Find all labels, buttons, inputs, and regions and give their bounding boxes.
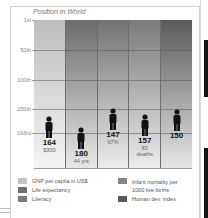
gridline [161, 80, 192, 81]
gridline [98, 50, 129, 51]
gridline [66, 109, 97, 110]
chart-legend: GNP per capita in US$ Life expectancy Li… [18, 178, 198, 208]
legend-label: Human dev. index [132, 196, 176, 202]
legend-label: Literacy [32, 196, 51, 202]
legend-swatch [18, 178, 27, 184]
legend-label: Infant mortality per [132, 178, 178, 186]
person-icon [171, 109, 183, 131]
rank-value: 180 [66, 150, 97, 158]
rank-detail: $300 [34, 147, 65, 153]
gridline [129, 50, 160, 51]
page-rule-2 [0, 212, 10, 213]
y-label-150th: 150th [12, 106, 31, 112]
column-life-expectancy: 180 44 yrs [66, 20, 98, 168]
y-label-50th: 50th [12, 47, 31, 53]
page-edge-bar-top [204, 40, 208, 97]
rank-value: 164 [34, 139, 65, 147]
legend-swatch [18, 196, 27, 202]
column-infant-mortality: 157 83 deaths [129, 20, 161, 168]
person-icon [43, 116, 55, 138]
page-divider-line [200, 0, 201, 218]
gridline [34, 109, 65, 110]
y-label-193rd: 193rd [12, 130, 31, 136]
legend-swatch [118, 178, 127, 184]
page-rule-1 [0, 208, 10, 209]
rank-detail: 67% [98, 139, 129, 145]
rank-detail: 44 yrs [66, 158, 97, 164]
gridline [129, 80, 160, 81]
rank-detail-unit: deaths [129, 151, 160, 157]
column-gnp: 164 $300 [34, 20, 66, 168]
gridline [34, 80, 65, 81]
y-label-100th: 100th [12, 77, 31, 83]
rank-value: 150 [161, 132, 192, 140]
person-icon [75, 127, 87, 149]
gridline [66, 50, 97, 51]
legend-label: Life expectancy [32, 187, 70, 193]
page-edge-bar-bottom [204, 148, 208, 218]
gridline [161, 50, 192, 51]
legend-item-gnp: GNP per capita in US$ [18, 178, 88, 184]
column-human-dev-index: 150 [161, 20, 192, 168]
gridline [129, 109, 160, 110]
rank-value: 147 [98, 131, 129, 139]
legend-label: GNP per capita in US$ [32, 178, 88, 184]
column-literacy: 147 67% [98, 20, 130, 168]
y-label-1st: 1st [12, 17, 31, 23]
legend-label-line2: 1000 live births [132, 186, 178, 194]
legend-item-life-expectancy: Life expectancy [18, 187, 70, 193]
gridline [34, 50, 65, 51]
legend-swatch [118, 196, 127, 202]
legend-item-literacy: Literacy [18, 196, 51, 202]
plot-area: 164 $300 180 44 yrs 147 67% 157 83 death… [34, 20, 192, 169]
gridline [66, 80, 97, 81]
rank-value: 157 [129, 137, 160, 145]
chart-title: Position in World [33, 8, 86, 15]
legend-swatch [18, 187, 27, 193]
legend-item-human-dev-index: Human dev. index [118, 196, 176, 202]
person-icon [107, 108, 119, 130]
gridline [98, 80, 129, 81]
person-icon [139, 114, 151, 136]
legend-item-infant-mortality: Infant mortality per 1000 live births [118, 178, 178, 194]
